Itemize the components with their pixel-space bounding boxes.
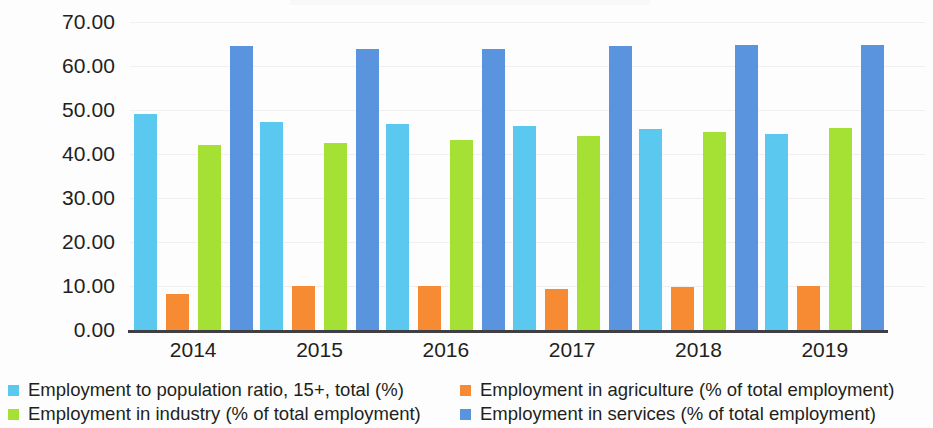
x-axis-label-2015: 2015 xyxy=(256,338,382,368)
bar-group-2015 xyxy=(256,0,382,330)
y-axis-tick-label: 30.00 xyxy=(62,186,115,210)
y-axis-labels: 0.0010.0020.0030.0040.0050.0060.0070.00 xyxy=(0,0,125,340)
bar-chart: 0.0010.0020.0030.0040.0050.0060.0070.00 … xyxy=(0,0,933,428)
legend-item-2[interactable]: Employment in industry (% of total emplo… xyxy=(8,402,460,426)
bar-2019-series-3[interactable] xyxy=(861,45,884,330)
bar-2017-series-2[interactable] xyxy=(577,136,600,330)
bar-2015-series-0[interactable] xyxy=(260,122,283,330)
bar-2016-series-2[interactable] xyxy=(450,140,473,330)
x-axis-label-2019: 2019 xyxy=(762,338,888,368)
legend-label: Employment in industry (% of total emplo… xyxy=(28,402,421,426)
x-axis-label-2018: 2018 xyxy=(635,338,761,368)
bar-2019-series-1[interactable] xyxy=(797,286,820,330)
legend-item-0[interactable]: Employment to population ratio, 15+, tot… xyxy=(8,378,460,402)
bar-2017-series-1[interactable] xyxy=(545,289,568,330)
bar-2017-series-0[interactable] xyxy=(513,126,536,330)
legend-label: Employment to population ratio, 15+, tot… xyxy=(28,378,404,402)
x-axis-labels: 201420152016201720182019 xyxy=(130,338,888,368)
x-axis-label-2017: 2017 xyxy=(509,338,635,368)
bar-2018-series-2[interactable] xyxy=(703,132,726,330)
x-axis-label-2014: 2014 xyxy=(130,338,256,368)
legend-swatch-icon xyxy=(8,409,19,420)
legend-item-3[interactable]: Employment in services (% of total emplo… xyxy=(460,402,933,426)
bar-2019-series-0[interactable] xyxy=(765,134,788,330)
legend-item-1[interactable]: Employment in agriculture (% of total em… xyxy=(460,378,933,402)
bar-2015-series-1[interactable] xyxy=(292,286,315,330)
bar-2015-series-3[interactable] xyxy=(356,49,379,330)
y-axis-tick-label: 40.00 xyxy=(62,142,115,166)
bars-container xyxy=(130,0,888,330)
chart-legend: Employment to population ratio, 15+, tot… xyxy=(8,378,933,426)
legend-label: Employment in agriculture (% of total em… xyxy=(480,378,894,402)
bar-2018-series-1[interactable] xyxy=(671,287,694,330)
y-axis-tick-label: 10.00 xyxy=(62,274,115,298)
x-axis-line xyxy=(128,330,888,333)
legend-swatch-icon xyxy=(460,385,471,396)
x-axis-label-2016: 2016 xyxy=(383,338,509,368)
legend-swatch-icon xyxy=(8,385,19,396)
bar-2014-series-2[interactable] xyxy=(198,145,221,330)
bar-2014-series-0[interactable] xyxy=(134,114,157,330)
bar-2017-series-3[interactable] xyxy=(609,46,632,330)
bar-2015-series-2[interactable] xyxy=(324,143,347,330)
y-axis-tick-label: 60.00 xyxy=(62,54,115,78)
bar-2014-series-1[interactable] xyxy=(166,294,189,330)
y-axis-tick-label: 0.00 xyxy=(74,318,115,342)
legend-swatch-icon xyxy=(460,409,471,420)
bar-group-2016 xyxy=(383,0,509,330)
bar-2016-series-0[interactable] xyxy=(386,124,409,330)
bar-2016-series-1[interactable] xyxy=(418,286,441,330)
y-axis-tick-label: 50.00 xyxy=(62,98,115,122)
bar-2019-series-2[interactable] xyxy=(829,128,852,330)
bar-group-2014 xyxy=(130,0,256,330)
bar-2018-series-3[interactable] xyxy=(735,45,758,330)
bar-2018-series-0[interactable] xyxy=(639,129,662,330)
bar-2014-series-3[interactable] xyxy=(230,46,253,330)
bar-2016-series-3[interactable] xyxy=(482,49,505,330)
bar-group-2017 xyxy=(509,0,635,330)
legend-label: Employment in services (% of total emplo… xyxy=(480,402,876,426)
bar-group-2018 xyxy=(635,0,761,330)
y-axis-tick-label: 70.00 xyxy=(62,10,115,34)
y-axis-tick-label: 20.00 xyxy=(62,230,115,254)
plot-area: 0.0010.0020.0030.0040.0050.0060.0070.00 … xyxy=(0,0,933,372)
bar-group-2019 xyxy=(762,0,888,330)
